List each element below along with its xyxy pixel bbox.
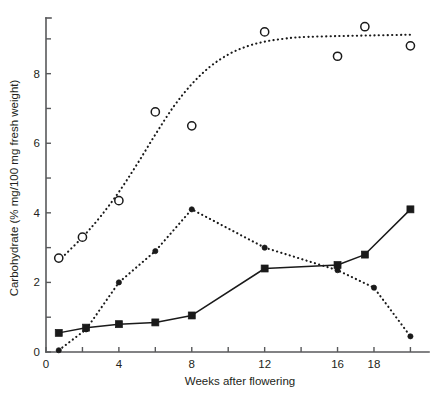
y-tick-label: 4 [34, 207, 41, 219]
data-point-filled-circle [408, 334, 413, 339]
data-point-open-circle [361, 23, 369, 31]
data-point-open-circle [188, 122, 196, 130]
carbohydrate-line-chart: 02468 048121618 Carbohydrate (% mg/100 m… [0, 0, 437, 393]
plot-axes: 02468 048121618 [34, 18, 429, 370]
y-tick-label: 6 [34, 137, 40, 149]
data-point-filled-square [115, 321, 122, 328]
filled-square-series-markers [55, 206, 414, 337]
data-point-open-circle [78, 233, 86, 241]
y-tick-label: 2 [34, 276, 40, 288]
data-point-open-circle [151, 108, 159, 116]
open-circle-series-markers [55, 23, 415, 263]
data-point-open-circle [333, 52, 341, 60]
x-tick-label: 4 [116, 358, 123, 370]
data-point-filled-square [261, 265, 268, 272]
data-point-filled-square [55, 329, 62, 336]
x-axis-title: Weeks after flowering [185, 375, 295, 387]
open-circle-series-line [59, 35, 411, 261]
data-point-filled-circle [116, 280, 121, 285]
filled-square-series-line [59, 209, 411, 333]
y-tick-label: 8 [34, 68, 40, 80]
x-tick-label: 12 [258, 358, 271, 370]
data-point-filled-square [83, 324, 90, 331]
data-point-open-circle [261, 28, 269, 36]
data-point-open-circle [115, 197, 123, 205]
plot-series [55, 23, 415, 353]
x-axis-tick-labels: 048121618 [43, 358, 381, 370]
x-tick-label: 16 [331, 358, 344, 370]
x-tick-label: 0 [43, 358, 49, 370]
data-point-filled-circle [189, 207, 194, 212]
data-point-filled-square [188, 312, 195, 319]
data-point-filled-circle [56, 348, 61, 353]
data-point-filled-square [152, 319, 159, 326]
y-axis-title: Carbohydrate (% mg/100 mg fresh weight) [8, 79, 20, 296]
data-point-filled-square [407, 206, 414, 213]
y-axis-tick-labels: 02468 [34, 68, 41, 358]
x-tick-label: 18 [368, 358, 381, 370]
data-point-filled-circle [371, 285, 376, 290]
data-point-filled-square [361, 251, 368, 258]
data-point-filled-circle [262, 245, 267, 250]
data-point-filled-circle [153, 249, 158, 254]
y-tick-label: 0 [34, 346, 40, 358]
chart-figure: 02468 048121618 Carbohydrate (% mg/100 m… [0, 0, 437, 393]
data-point-open-circle [55, 254, 63, 262]
x-tick-label: 8 [189, 358, 195, 370]
data-point-filled-square [334, 262, 341, 269]
filled-circle-series-line [59, 209, 411, 350]
filled-circle-series-markers [56, 207, 413, 353]
data-point-open-circle [406, 42, 414, 50]
